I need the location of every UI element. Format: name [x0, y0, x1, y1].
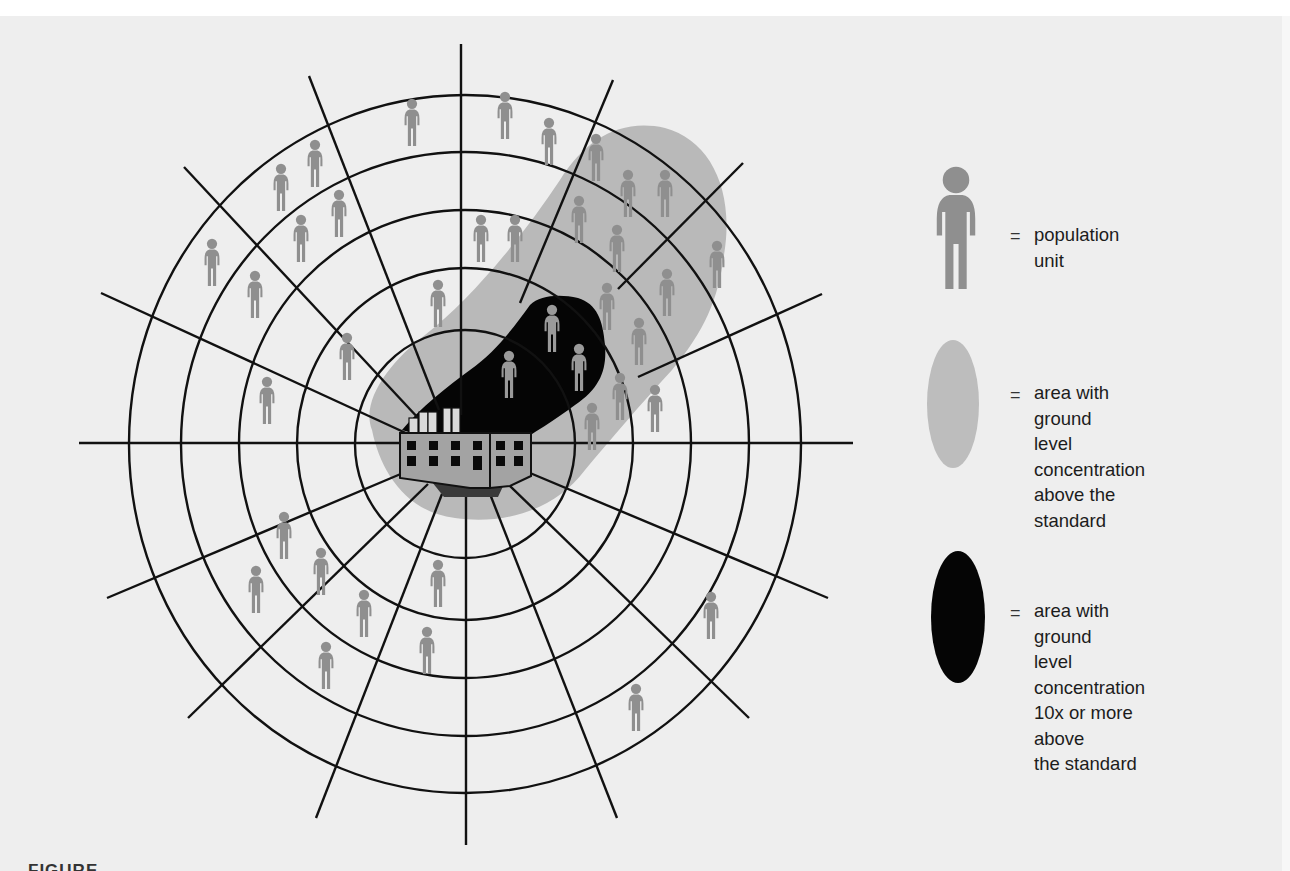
- legend-gray-ellipse-icon: [927, 340, 979, 468]
- population-unit-icon: [319, 642, 334, 689]
- population-unit-icon: [332, 190, 347, 237]
- population-unit-icon: [420, 627, 435, 674]
- population-unit-icon: [294, 215, 309, 262]
- legend-label-10x-standard: area with ground level concentration 10x…: [1034, 598, 1145, 777]
- legend-label-above-standard: area with ground level concentration abo…: [1034, 380, 1145, 533]
- legend-population-unit-icon: [937, 167, 975, 289]
- legend-equals: =: [1010, 603, 1021, 624]
- population-unit-icon: [629, 684, 644, 731]
- population-unit-icon: [274, 164, 289, 211]
- legend-label-population-unit: population unit: [1034, 222, 1119, 273]
- population-unit-icon: [357, 590, 372, 637]
- population-unit-icon: [405, 99, 420, 146]
- population-unit-icon: [542, 118, 557, 165]
- population-unit-icon: [340, 333, 355, 380]
- population-unit-icon: [249, 566, 264, 613]
- population-unit-icon: [277, 512, 292, 559]
- population-unit-icon: [205, 239, 220, 286]
- population-unit-icon: [308, 140, 323, 187]
- population-unit-icon: [248, 271, 263, 318]
- legend-equals: =: [1010, 385, 1021, 406]
- population-unit-icon: [474, 215, 489, 262]
- population-unit-icon: [260, 377, 275, 424]
- legend-equals: =: [1010, 226, 1021, 247]
- figure-caption-clipped: FIGURE: [28, 861, 98, 871]
- population-unit-icon: [431, 560, 446, 607]
- legend-black-ellipse-icon: [931, 551, 985, 683]
